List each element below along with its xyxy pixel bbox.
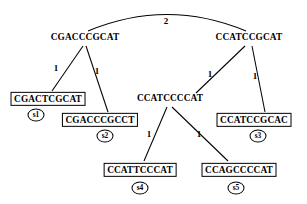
tree-leaf-ccatccgcac: CCATCCGCAC <box>217 113 292 127</box>
taxon-label-s5: s5 <box>228 182 245 195</box>
phylogenetic-tree-diagram: CGACCCGCAT CCATCCGCAT CCATCCCCAT CGACTCG… <box>0 0 307 204</box>
edge-weight-s2: 1 <box>95 67 100 76</box>
taxon-label-s3: s3 <box>250 130 267 143</box>
edge-ccatccgcat-to-ccatccccat <box>196 46 245 93</box>
tree-node-cgacccgcat: CGACCCGCAT <box>49 32 121 43</box>
edge-weight-root: 2 <box>164 17 169 26</box>
tree-leaf-ccattcccat: CCATTCCCAT <box>104 163 177 177</box>
edge-weight-s5: 1 <box>197 130 202 139</box>
edge-weight-s3: 1 <box>253 72 258 81</box>
edge-weight-ccatccccat: 1 <box>208 70 213 79</box>
tree-node-ccatccccat: CCATCCCCAT <box>135 93 205 104</box>
taxon-label-s1: s1 <box>28 109 45 122</box>
edge-weight-s1: 1 <box>54 64 59 73</box>
tree-leaf-ccagccccat: CCAGCCCCAT <box>202 163 277 177</box>
taxon-label-s4: s4 <box>132 182 149 195</box>
tree-leaf-cgacccgcct: CGACCCGCCT <box>62 113 138 127</box>
taxon-label-s2: s2 <box>97 130 114 143</box>
edge-weight-s4: 1 <box>147 130 152 139</box>
tree-leaf-cgactcgcat: CGACTCGCAT <box>11 92 86 106</box>
tree-node-ccatccgcat: CCATCCGCAT <box>214 32 285 43</box>
edge-cgacccgcat-to-s2 <box>86 46 108 112</box>
